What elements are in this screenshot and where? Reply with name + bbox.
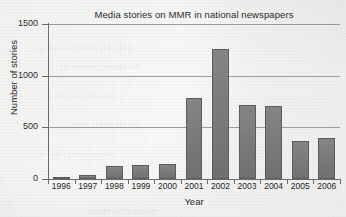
x-axis-tick-label: 2000 (152, 181, 182, 191)
x-axis-tick-label: 2006 (312, 181, 342, 191)
bar (53, 177, 70, 179)
x-axis-tick-label: 1997 (73, 181, 103, 191)
y-axis-tick-label: 0 (0, 173, 38, 183)
y-axis-tick-label: 500 (0, 121, 38, 131)
bar (239, 105, 256, 179)
x-axis-tick-label: 1996 (46, 181, 76, 191)
y-axis-tick-label: 1000 (0, 70, 38, 80)
x-axis-line (48, 179, 341, 180)
y-axis-tick-label: 1500 (0, 18, 38, 28)
bar (212, 49, 229, 179)
bar (186, 98, 203, 179)
bar (106, 166, 123, 179)
bar (79, 175, 96, 179)
bar-chart: Media stories on MMR in national newspap… (0, 0, 346, 217)
x-axis-tick-label: 2005 (285, 181, 315, 191)
x-axis-tick-label: 2003 (232, 181, 262, 191)
plot-area (48, 24, 340, 179)
bar (159, 164, 176, 179)
x-axis-tick-label: 2004 (259, 181, 289, 191)
bar (318, 138, 335, 179)
chart-title: Media stories on MMR in national newspap… (48, 9, 340, 20)
bar (292, 141, 309, 179)
x-axis-title: Year (48, 196, 340, 207)
x-axis-tick-label: 1999 (126, 181, 156, 191)
x-axis-tick-label: 1998 (99, 181, 129, 191)
bar (265, 106, 282, 179)
x-axis-tick-label: 2002 (206, 181, 236, 191)
bar (132, 165, 149, 179)
x-axis-tick (340, 179, 341, 184)
x-axis-tick-label: 2001 (179, 181, 209, 191)
